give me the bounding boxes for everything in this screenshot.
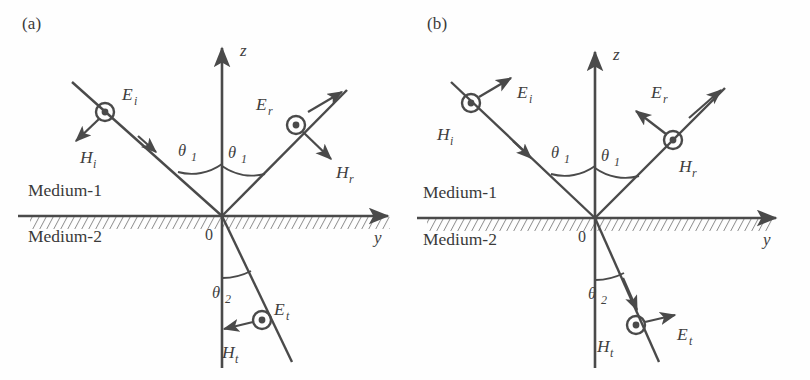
panel-b-theta1-incident-arc: [551, 166, 595, 176]
panel-b-Hi-subscript: i: [450, 134, 453, 148]
panel-b-incident-direction-arrow: [513, 141, 531, 158]
panel-a-Et-dot-center-icon: [259, 317, 266, 324]
panel-a-medium-1-label: Medium-1: [28, 180, 102, 201]
panel-a-transmitted-ray: [222, 216, 292, 362]
panel-b-theta1-reflected-subscript: 1: [614, 155, 620, 169]
panel-a-Er-subscript: r: [268, 104, 273, 118]
panel-a-Hr-arrow: [303, 132, 331, 159]
panel-a-Ei-dot-center-icon: [102, 109, 109, 116]
panel-a-Hi-arrow: [76, 119, 99, 141]
panel-b-Ei-arrow: [479, 78, 511, 97]
panel-a: (a) Medium-1 Medium-2 z y: [0, 0, 405, 380]
panel-a-z-axis-label: z: [239, 41, 247, 60]
panel-b-Hr-dot-center-icon: [670, 137, 677, 144]
panel-b-Hr-subscript: r: [692, 166, 697, 180]
panel-b-theta1-incident-label: θ: [551, 143, 559, 162]
panel-b-z-axis-label: z: [612, 45, 620, 64]
panel-b-medium-1-label: Medium-1: [423, 182, 497, 203]
panel-a-theta1-reflected-subscript: 1: [241, 152, 247, 166]
panel-b-Et-arrow: [645, 315, 675, 322]
panel-b-theta2-label: θ: [588, 284, 596, 303]
panel-b-Hr-label: H: [678, 156, 693, 176]
panel-a-Hi-label: H: [79, 147, 94, 167]
panel-a-Hr-subscript: r: [349, 172, 354, 186]
panel-a-Ei-label: E: [121, 84, 133, 104]
panel-a-Ht-subscript: t: [235, 352, 239, 366]
panel-b-medium-2-label: Medium-2: [423, 229, 497, 250]
panel-b-Et-subscript: t: [689, 334, 693, 348]
panel-b-theta1-reflected-label: θ: [601, 146, 609, 165]
panel-a-theta1-incident-label: θ: [178, 141, 186, 160]
panel-b-Ei-label: E: [516, 82, 528, 102]
panel-a-medium-2-label: Medium-2: [28, 226, 102, 247]
panel-b-transmitted-direction-arrow: [623, 278, 637, 310]
panel-b-theta1-incident-subscript: 1: [564, 152, 570, 166]
panel-a-reflected-direction-arrow: [308, 92, 342, 112]
panel-b: (b) Medium-1 Medium-2 z y 0: [405, 0, 810, 380]
panel-b-Hi-dot-center-icon: [468, 100, 475, 107]
panel-b-theta1-reflected-arc: [595, 168, 639, 178]
panel-b-Er-subscript: r: [663, 92, 668, 106]
panel-b-origin-label: 0: [578, 228, 586, 245]
panel-a-Et-label: E: [273, 299, 285, 319]
figure-root: (a) Medium-1 Medium-2 z y: [0, 0, 810, 380]
panel-b-Ei-subscript: i: [529, 92, 532, 106]
panel-b-theta2-subscript: 2: [601, 293, 607, 307]
panel-b-label: (b): [427, 14, 447, 34]
panel-a-Ei-subscript: i: [134, 94, 137, 108]
panel-a-theta1-reflected-label: θ: [228, 143, 236, 162]
panel-a-theta1-reflected-arc: [222, 166, 265, 176]
panel-a-theta2-subscript: 2: [225, 292, 231, 306]
panel-b-Ht-dot-center-icon: [633, 322, 640, 329]
panel-a-theta2-label: θ: [212, 283, 220, 302]
panel-b-theta2-arc: [595, 273, 624, 280]
panel-a-Ht-label: H: [221, 342, 236, 362]
panel-b-Ht-subscript: t: [610, 346, 614, 360]
panel-b-reflected-ray: [595, 88, 725, 218]
panel-a-origin-label: 0: [205, 226, 213, 243]
panel-a-Hi-subscript: i: [93, 157, 96, 171]
panel-b-y-axis-label: y: [761, 230, 771, 249]
panel-a-Et-subscript: t: [286, 309, 290, 323]
panel-a-Er-dot-center-icon: [293, 122, 300, 129]
panel-a-y-axis-label: y: [372, 228, 382, 247]
panel-b-Ht-label: H: [596, 336, 611, 356]
panel-b-Et-label: E: [676, 324, 688, 344]
panel-a-label: (a): [22, 14, 41, 34]
panel-a-theta2-arc: [222, 271, 251, 278]
panel-b-Er-label: E: [650, 82, 662, 102]
panel-b-Er-arrow: [636, 111, 666, 134]
panel-a-Ht-arrow: [224, 322, 253, 329]
panel-a-Er-label: E: [255, 94, 267, 114]
panel-b-reflected-direction-arrow: [689, 90, 721, 118]
panel-a-theta1-incident-subscript: 1: [191, 150, 197, 164]
panel-b-Hi-label: H: [436, 124, 451, 144]
panel-a-theta1-incident-arc: [178, 164, 222, 174]
panel-a-Hr-label: H: [335, 162, 350, 182]
